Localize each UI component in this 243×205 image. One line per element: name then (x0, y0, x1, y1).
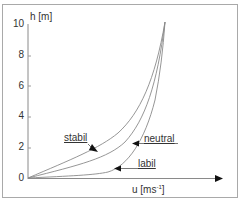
y-tick-6: 6 (10, 81, 24, 91)
x-axis-label: u [ms-1] (132, 184, 165, 195)
x-axis-arrow-icon (215, 175, 223, 182)
annotation-labil: labil (138, 159, 156, 169)
curve-labil (28, 22, 165, 178)
y-tick-4: 4 (10, 111, 24, 121)
y-tick-0: 0 (10, 173, 24, 183)
y-axis-label: h [m] (30, 12, 52, 22)
curve-stabil (28, 22, 165, 178)
y-tick-10: 10 (10, 19, 24, 29)
annotation-stabil: stabil (64, 133, 87, 143)
curve-neutral (28, 22, 165, 178)
y-tick-8: 8 (10, 50, 24, 60)
y-tick-2: 2 (10, 142, 24, 152)
annotation-neutral: neutral (144, 134, 175, 144)
chart-plot (0, 0, 243, 205)
x-axis-label-base: u [ms (132, 184, 156, 195)
x-axis-label-end: ] (162, 184, 165, 195)
annotation-arrows (88, 141, 178, 172)
